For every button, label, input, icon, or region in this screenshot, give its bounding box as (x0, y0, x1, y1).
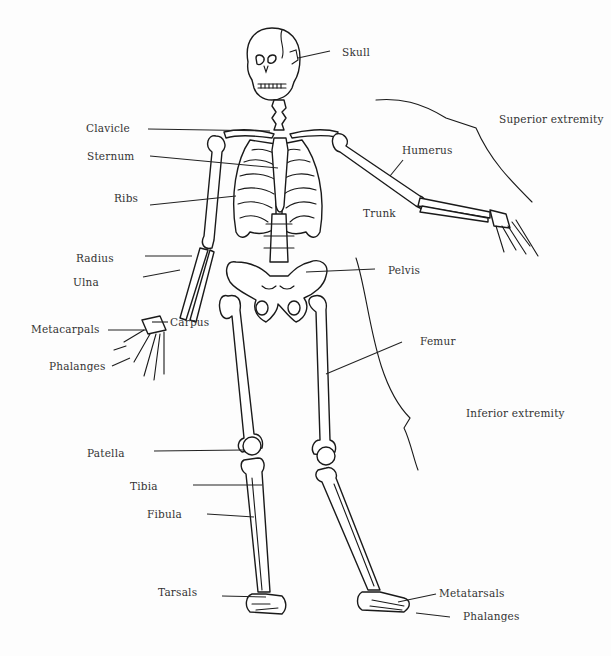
label-femur: Femur (420, 335, 456, 347)
label-patella: Patella (87, 447, 125, 459)
label-metatarsals: Metatarsals (439, 587, 505, 599)
label-clavicle: Clavicle (86, 122, 130, 134)
label-phalanges-hand: Phalanges (49, 360, 106, 372)
label-tarsals: Tarsals (158, 586, 197, 598)
label-superior-extremity: Superior extremity (499, 113, 604, 125)
cervical-spine (272, 100, 286, 130)
label-skull: Skull (342, 46, 370, 58)
label-tibia: Tibia (130, 480, 158, 492)
right-clavicle (290, 130, 338, 138)
label-humerus: Humerus (402, 144, 453, 156)
skull-drawing (247, 28, 300, 100)
label-trunk: Trunk (363, 207, 396, 219)
label-phalanges-foot: Phalanges (463, 610, 520, 622)
label-radius: Radius (76, 252, 114, 264)
label-inferior-extremity: Inferior extremity (466, 407, 565, 419)
label-metacarpals: Metacarpals (31, 323, 100, 335)
pelvis-drawing (227, 261, 327, 322)
label-sternum: Sternum (87, 150, 135, 162)
label-fibula: Fibula (147, 508, 182, 520)
skeleton-diagram: Skull Clavicle Sternum Ribs Humerus Trun… (0, 0, 611, 656)
label-carpus: Carpus (170, 316, 209, 328)
leader-lines (108, 51, 450, 617)
inferior-extremity-bracket (356, 258, 418, 470)
label-pelvis: Pelvis (388, 264, 420, 276)
left-leg (219, 296, 285, 614)
right-leg (309, 296, 409, 612)
left-arm (114, 136, 225, 380)
label-ribs: Ribs (114, 192, 138, 204)
label-ulna: Ulna (73, 276, 99, 288)
